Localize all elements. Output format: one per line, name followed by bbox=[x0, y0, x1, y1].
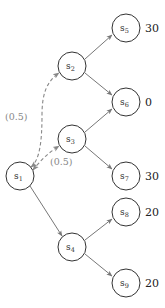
prob-label-s2: (0.5) bbox=[5, 111, 28, 122]
node-s9-sub: 9 bbox=[125, 282, 129, 290]
node-s6-sub: 6 bbox=[125, 101, 129, 109]
node-s3: s3 bbox=[58, 125, 86, 153]
edge-s2-s6 bbox=[85, 73, 112, 95]
value-s6: 0 bbox=[145, 96, 152, 109]
node-s8: s8 bbox=[112, 198, 140, 226]
value-s9: 20 bbox=[145, 277, 159, 290]
edge-s3-s7 bbox=[85, 146, 112, 169]
node-s2-sub: 2 bbox=[71, 65, 75, 73]
node-s9: s9 bbox=[112, 269, 140, 297]
node-s5: s5 bbox=[112, 14, 140, 42]
node-s5-sub: 5 bbox=[125, 27, 129, 35]
node-s2: s2 bbox=[58, 52, 86, 80]
value-s7: 30 bbox=[145, 170, 159, 183]
node-s1: s1 bbox=[6, 162, 34, 190]
edge-s4-s9 bbox=[85, 254, 112, 276]
value-s5: 30 bbox=[145, 22, 159, 35]
node-s1-sub: 1 bbox=[19, 175, 23, 183]
prob-label-s3: (0.5) bbox=[50, 156, 73, 167]
edge-s2-s5 bbox=[85, 35, 112, 59]
node-s3-sub: 3 bbox=[71, 138, 75, 146]
decision-tree-diagram: (0.5) (0.5) s1 s2 s3 s4 s5 s6 s7 s8 s9 3… bbox=[0, 0, 165, 308]
value-s8: 20 bbox=[145, 206, 159, 219]
node-s4-sub: 4 bbox=[71, 246, 75, 254]
node-s8-sub: 8 bbox=[125, 211, 129, 219]
node-s4: s4 bbox=[58, 233, 86, 261]
node-s7-sub: 7 bbox=[125, 175, 129, 183]
edge-s4-s8 bbox=[85, 219, 112, 240]
node-s6: s6 bbox=[112, 88, 140, 116]
dashed-edge-s1-s2 bbox=[31, 73, 59, 167]
node-s7: s7 bbox=[112, 162, 140, 190]
edge-s1-s4 bbox=[30, 186, 62, 236]
edge-s3-s6 bbox=[85, 109, 112, 132]
